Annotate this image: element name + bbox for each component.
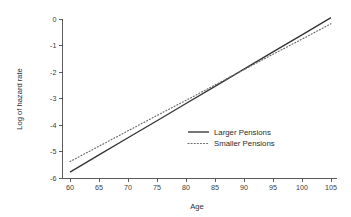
y-axis-tick-labels: 0-1-2-3-4-5-6: [50, 15, 56, 183]
x-tick-label: 60: [66, 183, 74, 192]
y-tick-label: 0: [53, 15, 57, 24]
y-tick-label: -5: [50, 147, 56, 156]
series-line-dotted: [70, 24, 331, 162]
y-axis-tick-marks: [59, 19, 63, 178]
hazard-rate-line-chart: 0-1-2-3-4-5-6 6065707580859095100105 Age…: [0, 0, 351, 217]
x-tick-label: 100: [296, 183, 308, 192]
x-tick-label: 90: [240, 183, 248, 192]
y-tick-label: -6: [50, 174, 56, 183]
chart-figure: 0-1-2-3-4-5-6 6065707580859095100105 Age…: [0, 0, 351, 217]
x-tick-label: 95: [269, 183, 277, 192]
chart-legend: Larger PensionsSmaller Pensions: [188, 128, 275, 149]
x-tick-label: 65: [95, 183, 103, 192]
x-tick-label: 70: [124, 183, 132, 192]
x-axis-tick-labels: 6065707580859095100105: [66, 183, 337, 192]
data-series-group: [70, 18, 331, 172]
legend-label: Larger Pensions: [214, 128, 271, 137]
x-axis-tick-marks: [70, 178, 331, 182]
y-axis-title: Log of hazard rate: [15, 68, 24, 130]
x-tick-label: 80: [182, 183, 190, 192]
y-tick-label: -2: [50, 68, 56, 77]
y-tick-label: -1: [50, 41, 56, 50]
y-tick-label: -3: [50, 94, 56, 103]
x-tick-label: 85: [211, 183, 219, 192]
x-axis-title: Age: [190, 202, 204, 211]
y-tick-label: -4: [50, 121, 56, 130]
x-tick-label: 75: [153, 183, 161, 192]
x-tick-label: 105: [325, 183, 337, 192]
series-line-solid: [70, 18, 331, 172]
legend-label: Smaller Pensions: [214, 139, 275, 148]
